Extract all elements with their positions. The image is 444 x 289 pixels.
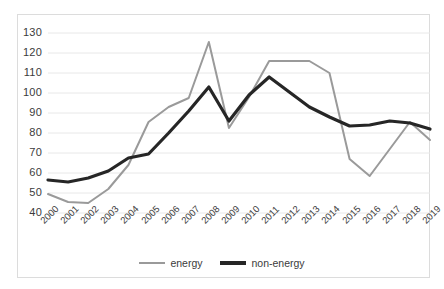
y-axis-tick-label: 70 — [12, 146, 42, 158]
legend-swatch-non-energy-icon — [220, 261, 246, 265]
chart-legend: energy non-energy — [0, 253, 444, 273]
legend-swatch-energy-icon — [139, 262, 165, 264]
y-axis-tick-label: 50 — [12, 186, 42, 198]
y-axis-tick-label: 110 — [12, 66, 42, 78]
y-axis-tick-label: 100 — [12, 86, 42, 98]
y-axis-tick-label: 120 — [12, 46, 42, 58]
chart-plot-area — [0, 0, 444, 289]
series-lines — [48, 42, 430, 203]
series-line-energy — [48, 42, 430, 203]
legend-label-energy: energy — [170, 257, 202, 269]
y-axis-tick-label: 60 — [12, 166, 42, 178]
y-axis-tick-label: 40 — [12, 206, 42, 218]
legend-item-energy[interactable]: energy — [139, 257, 202, 269]
y-axis-tick-label: 80 — [12, 126, 42, 138]
legend-label-non-energy: non-energy — [251, 257, 304, 269]
y-axis-tick-label: 90 — [12, 106, 42, 118]
legend-item-non-energy[interactable]: non-energy — [220, 257, 304, 269]
y-axis-tick-label: 130 — [12, 26, 42, 38]
